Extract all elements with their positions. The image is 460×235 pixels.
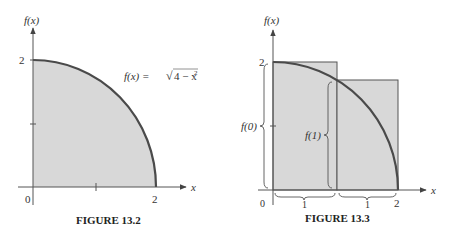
rectangle-2 [337, 80, 398, 190]
brace-f0 [260, 64, 268, 188]
height-label-f0: f(0) [241, 120, 257, 133]
width-label-1: 1 [302, 199, 307, 210]
figure-13-2: f(x) x 2 0 2 f(x) = √ 4 − x 2 FIGURE 13.… [18, 14, 198, 226]
y-tick-label-2: 2 [19, 54, 25, 66]
y-axis-label: f(x) [24, 14, 40, 27]
figure-caption: FIGURE 13.2 [76, 214, 141, 226]
x-axis-label: x [190, 181, 196, 193]
height-label-f1: f(1) [305, 129, 321, 142]
rectangle-1 [273, 62, 337, 190]
y-axis-label: f(x) [264, 14, 280, 27]
x-tick-label-2: 2 [394, 197, 400, 209]
svg-text:2: 2 [194, 69, 198, 77]
function-label: f(x) = √ 4 − x 2 [124, 69, 198, 83]
svg-text:f(x) =: f(x) = [124, 70, 149, 83]
figure-13-3: f(x) x 2 0 2 1 1 f(0) f(1) FIGURE 13.3 [241, 14, 436, 224]
figure-caption: FIGURE 13.3 [305, 212, 370, 224]
x-tick-label-2: 2 [152, 193, 158, 205]
x-tick-label-0: 0 [260, 198, 265, 209]
svg-text:√: √ [166, 69, 173, 83]
x-axis-label: x [430, 184, 436, 196]
x-tick-label-0: 0 [25, 193, 31, 205]
y-tick-label-2: 2 [259, 56, 265, 68]
width-label-2: 1 [365, 199, 370, 210]
figures-canvas: f(x) x 2 0 2 f(x) = √ 4 − x 2 FIGURE 13.… [0, 0, 460, 235]
